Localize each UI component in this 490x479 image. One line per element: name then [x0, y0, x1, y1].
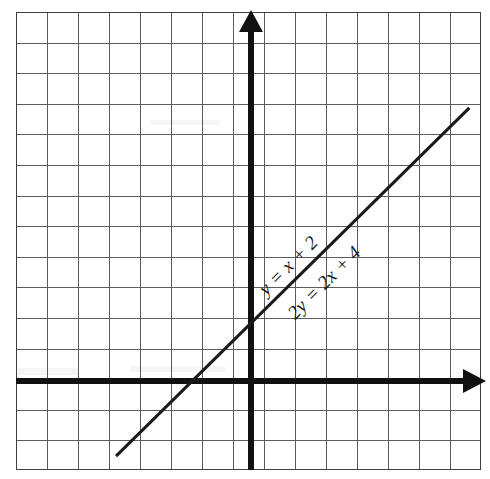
- x-axis: [16, 378, 472, 384]
- y-axis-arrow-icon: [239, 10, 263, 32]
- y-axis: [248, 30, 254, 470]
- graph-figure: y = x + 2 2y = 2x + 4: [0, 0, 490, 479]
- x-axis-arrow-icon: [463, 369, 486, 393]
